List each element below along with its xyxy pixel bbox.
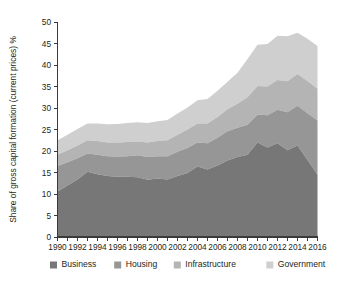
legend-swatch-government[interactable] [266, 262, 273, 269]
y-tick-label: 15 [42, 168, 52, 178]
x-tick-label: 2014 [288, 242, 307, 252]
x-tick-label: 2004 [188, 242, 207, 252]
y-tick-label: 20 [42, 146, 52, 156]
y-tick-label: 40 [42, 60, 52, 70]
x-axis-ticks: 1990199219941996199820002002200420062008… [48, 237, 327, 252]
plot-series-group [58, 33, 318, 237]
y-axis-ticks: 05101520253035404550 [42, 17, 58, 242]
x-tick-label: 1996 [108, 242, 127, 252]
y-tick-label: 5 [46, 211, 51, 221]
x-tick-label: 2000 [148, 242, 167, 252]
y-tick-label: 35 [42, 82, 52, 92]
legend-label-housing[interactable]: Housing [126, 259, 158, 269]
chart-canvas: 05101520253035404550 1990199219941996199… [0, 0, 342, 288]
x-tick-label: 2002 [168, 242, 187, 252]
y-tick-label: 50 [42, 17, 52, 27]
y-axis-title: Share of gross capital formation (curren… [8, 36, 18, 223]
y-tick-label: 45 [42, 39, 52, 49]
legend-swatch-housing[interactable] [114, 262, 121, 269]
x-tick-label: 1998 [128, 242, 147, 252]
legend-swatch-business[interactable] [50, 262, 57, 269]
x-tick-label: 2008 [228, 242, 247, 252]
x-tick-label: 1994 [88, 242, 107, 252]
x-tick-label: 2006 [208, 242, 227, 252]
legend-swatch-infrastructure[interactable] [174, 262, 181, 269]
legend-label-business[interactable]: Business [62, 259, 97, 269]
y-tick-label: 10 [42, 189, 52, 199]
stacked-area-chart-figure: 05101520253035404550 1990199219941996199… [0, 0, 342, 288]
legend-label-infrastructure[interactable]: Infrastructure [185, 259, 236, 269]
chart-legend: BusinessHousingInfrastructureGovernment [50, 259, 326, 269]
x-tick-label: 1990 [48, 242, 67, 252]
x-tick-label: 2012 [268, 242, 287, 252]
y-tick-label: 25 [42, 125, 52, 135]
y-tick-label: 30 [42, 103, 52, 113]
y-tick-label: 0 [46, 232, 51, 242]
legend-label-government[interactable]: Government [278, 259, 326, 269]
x-tick-label: 2016 [308, 242, 327, 252]
x-tick-label: 2010 [248, 242, 267, 252]
x-tick-label: 1992 [68, 242, 87, 252]
